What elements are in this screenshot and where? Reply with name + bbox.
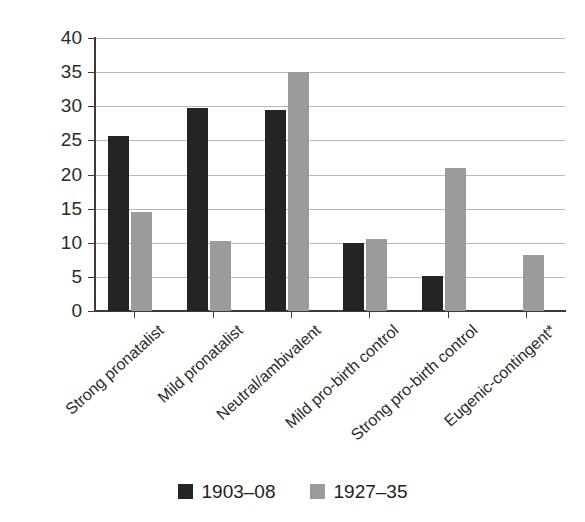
bar-series2-1	[210, 241, 231, 311]
legend-item-1: 1927–35	[310, 482, 408, 501]
gridline-5	[95, 277, 565, 278]
gridline-20	[95, 175, 565, 176]
gridline-25	[95, 140, 565, 141]
y-tick-label-25: 25	[36, 130, 82, 149]
y-tick-label-0: 0	[36, 301, 82, 320]
bar-series2-4	[445, 168, 466, 311]
y-tick-label-30: 30	[36, 96, 82, 115]
y-tick-mark-30	[88, 106, 95, 107]
legend-label-1: 1927–35	[334, 482, 408, 501]
bar-series1-3	[343, 243, 364, 311]
y-tick-mark-40	[88, 38, 95, 39]
gridline-30	[95, 106, 565, 107]
y-tick-mark-25	[88, 140, 95, 141]
y-tick-mark-35	[88, 72, 95, 73]
gridline-15	[95, 209, 565, 210]
y-tick-label-15: 15	[36, 199, 82, 218]
bar-series1-2	[265, 110, 286, 311]
gridline-35	[95, 72, 565, 73]
legend-swatch-1	[310, 484, 325, 499]
bar-chart: 4035302520151050 Strong pronatalistMild …	[0, 0, 585, 522]
bar-series1-1	[187, 108, 208, 311]
gridline-40	[95, 38, 565, 39]
x-tick-mark-1	[213, 312, 214, 318]
y-tick-label-20: 20	[36, 165, 82, 184]
legend: 1903–081927–35	[0, 482, 585, 501]
plot-area	[95, 38, 565, 311]
y-tick-mark-10	[88, 243, 95, 244]
x-tick-mark-4	[448, 312, 449, 318]
y-tick-mark-20	[88, 175, 95, 176]
x-tick-mark-3	[369, 312, 370, 318]
x-tick-mark-2	[291, 312, 292, 318]
y-tick-mark-5	[88, 277, 95, 278]
bar-series1-0	[108, 136, 129, 311]
y-tick-label-40: 40	[36, 28, 82, 47]
legend-swatch-0	[178, 484, 193, 499]
x-axis-line	[94, 310, 566, 312]
bar-series2-0	[131, 212, 152, 311]
y-tick-label-35: 35	[36, 62, 82, 81]
bar-series1-4	[422, 276, 443, 311]
legend-label-0: 1903–08	[202, 482, 276, 501]
legend-item-0: 1903–08	[178, 482, 276, 501]
x-tick-mark-0	[134, 312, 135, 318]
y-tick-mark-15	[88, 209, 95, 210]
y-tick-mark-0	[88, 311, 95, 312]
bar-series2-3	[366, 239, 387, 311]
gridline-10	[95, 243, 565, 244]
bar-series2-2	[288, 72, 309, 311]
bar-series2-5	[523, 255, 544, 311]
x-tick-mark-5	[526, 312, 527, 318]
y-tick-label-10: 10	[36, 233, 82, 252]
y-tick-label-5: 5	[36, 267, 82, 286]
